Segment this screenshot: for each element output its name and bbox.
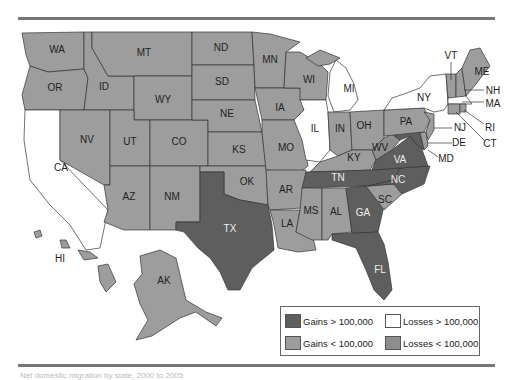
state-hi-3[interactable] bbox=[78, 250, 98, 260]
label-in: IN bbox=[335, 123, 345, 134]
legend-label: Gains < 100,000 bbox=[303, 338, 373, 349]
label-pa: PA bbox=[400, 116, 413, 127]
label-nv: NV bbox=[80, 134, 94, 145]
label-fl: FL bbox=[374, 264, 386, 275]
label-nd: ND bbox=[214, 42, 228, 53]
label-ga: GA bbox=[356, 207, 371, 218]
label-ia: IA bbox=[275, 102, 285, 113]
label-ms: MS bbox=[304, 205, 319, 216]
swatch-losses-over bbox=[385, 314, 401, 328]
state-in[interactable] bbox=[328, 112, 352, 156]
label-al: AL bbox=[330, 206, 343, 217]
caption: Net domestic migration by state, 2000 to… bbox=[20, 371, 183, 380]
legend-item-losses-under: Losses < 100,000 bbox=[385, 336, 478, 350]
label-nc: NC bbox=[391, 174, 405, 185]
label-ky: KY bbox=[347, 152, 361, 163]
bottom-rule bbox=[18, 364, 495, 367]
label-va: VA bbox=[394, 154, 407, 165]
label-wi: WI bbox=[303, 74, 315, 85]
label-nh: NH bbox=[486, 85, 500, 96]
label-vt: VT bbox=[445, 50, 458, 61]
legend-label: Gains > 100,000 bbox=[303, 316, 373, 327]
label-ne: NE bbox=[220, 108, 234, 119]
label-md: MD bbox=[438, 153, 454, 164]
label-co: CO bbox=[172, 136, 187, 147]
label-ar: AR bbox=[279, 184, 293, 195]
legend-label: Losses < 100,000 bbox=[403, 338, 478, 349]
label-id: ID bbox=[99, 81, 109, 92]
legend: Gains > 100,000 Losses > 100,000 Gains <… bbox=[280, 306, 480, 356]
state-hi-1[interactable] bbox=[34, 230, 42, 238]
state-ct[interactable] bbox=[448, 104, 460, 114]
label-il: IL bbox=[311, 123, 320, 134]
label-hi: HI bbox=[55, 253, 65, 264]
label-ks: KS bbox=[232, 144, 246, 155]
legend-item-gains-over: Gains > 100,000 bbox=[285, 314, 373, 328]
label-tx: TX bbox=[224, 223, 237, 234]
label-nm: NM bbox=[164, 191, 180, 202]
legend-item-gains-under: Gains < 100,000 bbox=[285, 336, 373, 350]
label-wa: WA bbox=[49, 44, 65, 55]
label-ut: UT bbox=[123, 136, 136, 147]
label-mt: MT bbox=[137, 47, 151, 58]
label-wy: WY bbox=[155, 94, 171, 105]
label-ct: CT bbox=[483, 138, 496, 149]
state-hi-2[interactable] bbox=[60, 240, 70, 248]
label-ca: CA bbox=[54, 162, 68, 173]
label-ri: RI bbox=[485, 122, 495, 133]
swatch-gains-under bbox=[285, 336, 301, 350]
swatch-gains-over bbox=[285, 314, 301, 328]
label-nj: NJ bbox=[454, 122, 466, 133]
label-oh: OH bbox=[357, 120, 372, 131]
legend-label: Losses > 100,000 bbox=[403, 316, 478, 327]
label-or: OR bbox=[48, 82, 63, 93]
label-ak: AK bbox=[157, 275, 171, 286]
label-mo: MO bbox=[278, 142, 294, 153]
state-ak[interactable] bbox=[134, 250, 222, 340]
label-mi: MI bbox=[343, 83, 354, 94]
legend-item-losses-over: Losses > 100,000 bbox=[385, 314, 478, 328]
label-wv: WV bbox=[372, 142, 388, 153]
label-ma: MA bbox=[486, 98, 501, 109]
swatch-losses-under bbox=[385, 336, 401, 350]
label-ny: NY bbox=[417, 92, 431, 103]
label-la: LA bbox=[281, 218, 294, 229]
label-de: DE bbox=[452, 137, 466, 148]
state-hi-4[interactable] bbox=[98, 264, 116, 292]
label-me: ME bbox=[475, 66, 490, 77]
label-sc: SC bbox=[378, 194, 392, 205]
state-ny[interactable] bbox=[384, 74, 448, 112]
label-tn: TN bbox=[331, 172, 344, 183]
label-az: AZ bbox=[123, 191, 136, 202]
label-mn: MN bbox=[262, 54, 278, 65]
label-sd: SD bbox=[215, 76, 229, 87]
label-ok: OK bbox=[240, 176, 255, 187]
